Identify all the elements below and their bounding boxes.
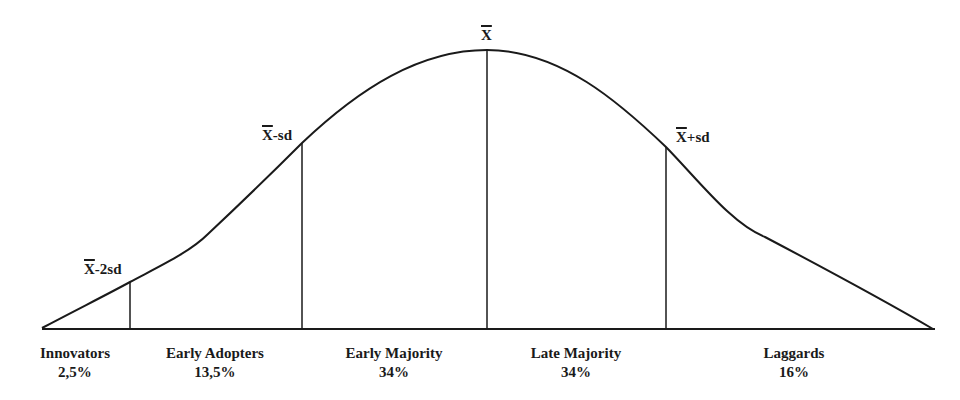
- segment-percent: 16%: [764, 363, 825, 382]
- segment-name: Innovators: [40, 344, 110, 363]
- marker-suffix: -sd: [273, 127, 292, 143]
- marker-suffix: +sd: [687, 129, 710, 145]
- segment-name: Laggards: [764, 344, 825, 363]
- mean-symbol: X: [676, 129, 687, 145]
- segment-early-majority: Early Majority 34%: [345, 344, 442, 382]
- segment-name: Late Majority: [531, 344, 621, 363]
- mean-symbol: X: [84, 261, 95, 277]
- segment-innovators: Innovators 2,5%: [40, 344, 110, 382]
- marker-suffix: -2sd: [95, 261, 122, 277]
- segment-percent: 34%: [345, 363, 442, 382]
- marker-label-mean-plus-sd: X+sd: [676, 130, 710, 145]
- mean-symbol: X: [481, 27, 492, 43]
- marker-label-mean: X: [481, 28, 492, 43]
- marker-label-mean-minus-2sd: X-2sd: [84, 262, 122, 277]
- segment-late-majority: Late Majority 34%: [531, 344, 621, 382]
- segment-laggards: Laggards 16%: [764, 344, 825, 382]
- segment-name: Early Majority: [345, 344, 442, 363]
- marker-label-mean-minus-sd: X-sd: [262, 128, 292, 143]
- segment-percent: 34%: [531, 363, 621, 382]
- bell-curve-chart: [0, 0, 960, 400]
- mean-symbol: X: [262, 127, 273, 143]
- segment-early-adopters: Early Adopters 13,5%: [166, 344, 264, 382]
- segment-name: Early Adopters: [166, 344, 264, 363]
- segment-percent: 13,5%: [166, 363, 264, 382]
- segment-percent: 2,5%: [40, 363, 110, 382]
